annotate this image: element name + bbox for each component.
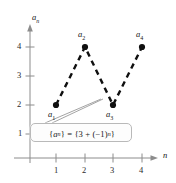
sequence-plot-figure: an n 4 3 2 1 1 2 3 4 a1 a2 a3 a4 {an} = … [0, 0, 176, 183]
formula-text: {an} = {3 + (−1)n} [31, 124, 133, 143]
point-label-a1: a1 [48, 109, 55, 121]
formula-rhs-close-brace: } [111, 129, 115, 139]
y-tick-label-4: 4 [17, 41, 21, 51]
plot-canvas [0, 0, 176, 183]
x-tick-label-2: 2 [82, 165, 86, 175]
formula-callout-box: {an} = {3 + (−1)n} [30, 123, 132, 142]
formula-close-brace: } [61, 129, 65, 139]
data-point-markers [53, 44, 145, 108]
data-point-2 [82, 44, 88, 50]
x-tick-label-4: 4 [139, 165, 143, 175]
y-tick-label-2: 2 [17, 99, 21, 109]
sequence-dashed-path [56, 47, 142, 105]
point-label-a1-sub: 1 [52, 115, 55, 121]
data-point-1 [53, 102, 59, 108]
point-label-a2-sub: 2 [82, 35, 85, 41]
formula-equals: = [67, 129, 72, 139]
x-axis-label: n [163, 150, 167, 160]
formula-rhs-base: 3 + (−1) [79, 129, 108, 139]
y-axis-label-sub: n [36, 18, 39, 24]
point-label-a4-sub: 4 [140, 35, 143, 41]
point-label-a2: a2 [78, 29, 85, 41]
x-axis-arrow [151, 155, 159, 161]
y-tick-label-1: 1 [18, 128, 22, 138]
point-label-a3: a3 [106, 109, 113, 121]
y-axis-arrow [27, 24, 33, 32]
x-axis [14, 154, 158, 163]
data-point-4 [139, 44, 145, 50]
data-point-3 [110, 102, 116, 108]
x-tick-label-3: 3 [110, 165, 114, 175]
x-tick-label-1: 1 [54, 165, 58, 175]
y-axis-label: an [32, 12, 39, 24]
point-label-a4: a4 [136, 29, 143, 41]
y-tick-label-3: 3 [17, 70, 21, 80]
point-label-a3-sub: 3 [110, 115, 113, 121]
